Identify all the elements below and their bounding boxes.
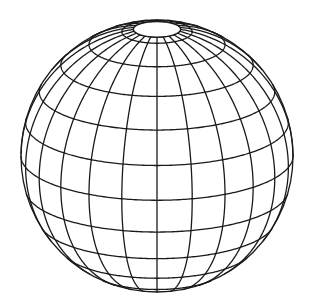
meridian-line xyxy=(39,33,136,274)
meridian-line xyxy=(181,29,293,156)
north-pole-cap xyxy=(133,22,180,37)
wireframe-globe xyxy=(0,0,312,302)
meridian-line xyxy=(177,33,274,274)
